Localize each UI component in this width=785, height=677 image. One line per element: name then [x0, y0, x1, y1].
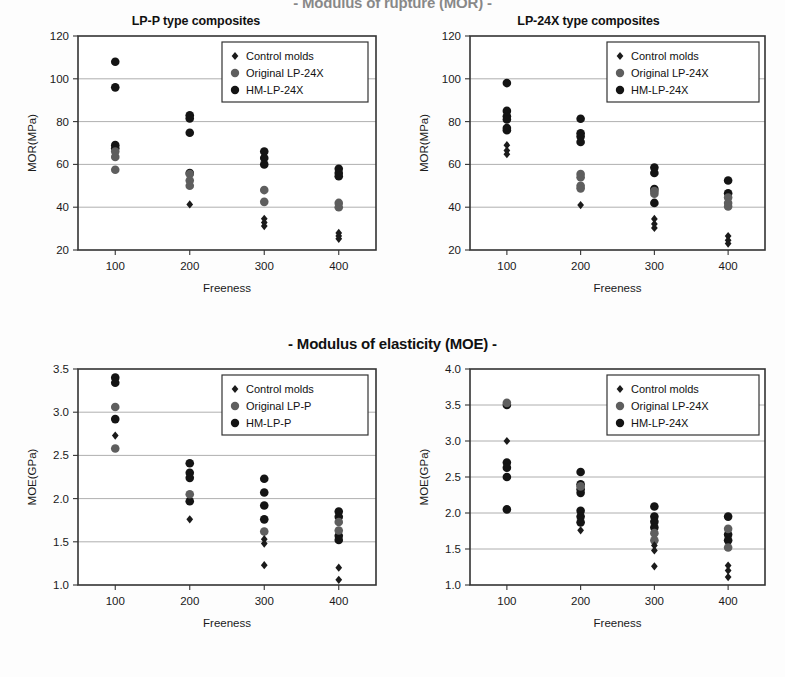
x-tick-label: 300	[645, 260, 664, 272]
y-axis-title: MOE(GPa)	[26, 448, 38, 505]
chart-svg-mor-lp-p: 20406080100120100200300400FreenessMOR(MP…	[0, 14, 392, 320]
data-point	[111, 444, 120, 453]
data-point	[503, 115, 512, 124]
legend-marker-circle-icon	[231, 419, 239, 427]
x-tick-label: 300	[255, 595, 274, 607]
y-tick-label: 80	[56, 116, 69, 128]
legend-label: Control molds	[246, 50, 314, 62]
data-point	[111, 57, 120, 66]
data-point	[503, 473, 512, 482]
legend-label: Control molds	[631, 50, 699, 62]
data-point	[650, 189, 659, 198]
y-tick-label: 1.0	[445, 579, 461, 591]
y-tick-label: 20	[448, 244, 461, 256]
data-point	[111, 379, 120, 388]
chart-svg-moe-lp-24x: 1.01.52.02.53.03.54.0100200300400Freenes…	[392, 357, 785, 657]
data-point	[334, 172, 343, 181]
legend-marker-circle-icon	[616, 69, 624, 77]
y-tick-label: 120	[442, 30, 461, 42]
legend-marker-circle-icon	[231, 402, 239, 410]
data-point	[503, 126, 512, 135]
data-point	[185, 128, 194, 137]
figure-page: - Modulus of rupture (MOR) - - Modulus o…	[0, 0, 785, 677]
legend-label: HM-LP-24X	[631, 84, 689, 96]
chart-svg-mor-lp-24x: 20406080100120100200300400FreenessMOR(MP…	[392, 14, 785, 320]
y-tick-label: 20	[56, 244, 69, 256]
legend-label: Original LP-24X	[631, 400, 709, 412]
chart-legend: Control moldsOriginal LP-24XHM-LP-24X	[607, 375, 759, 435]
chart-legend: Control moldsOriginal LP-24XHM-LP-24X	[607, 42, 759, 102]
y-tick-label: 40	[448, 201, 461, 213]
x-tick-label: 200	[180, 260, 199, 272]
y-tick-label: 80	[448, 116, 461, 128]
data-point	[650, 502, 659, 511]
legend-marker-circle-icon	[616, 419, 624, 427]
x-axis-title: Freeness	[203, 617, 251, 629]
data-point	[260, 186, 269, 195]
y-axis-title: MOE(GPa)	[418, 448, 430, 505]
x-tick-label: 400	[719, 595, 738, 607]
y-tick-label: 3.5	[53, 363, 69, 375]
chart-legend: Control moldsOriginal LP-24XHM-LP-24X	[222, 42, 368, 102]
data-point	[503, 79, 512, 88]
data-point	[334, 526, 343, 535]
data-point	[185, 114, 194, 123]
data-point	[334, 518, 343, 527]
data-point	[260, 198, 269, 207]
y-tick-label: 60	[56, 158, 69, 170]
legend-label: HM-LP-24X	[631, 417, 689, 429]
data-point	[260, 488, 269, 497]
y-axis-title: MOR(MPa)	[26, 114, 38, 172]
figure-title-mor: - Modulus of rupture (MOR) -	[0, 0, 785, 11]
data-point	[503, 505, 512, 514]
x-axis-title: Freeness	[203, 282, 251, 294]
data-point	[185, 459, 194, 468]
data-point	[334, 536, 343, 545]
y-tick-label: 2.0	[445, 507, 461, 519]
data-point	[503, 463, 512, 472]
chart-panel-mor-lp-p: LP-P type composites 2040608010012010020…	[0, 14, 392, 334]
data-point	[576, 138, 585, 147]
x-tick-label: 300	[255, 260, 274, 272]
x-axis-title: Freeness	[594, 282, 642, 294]
y-tick-label: 120	[50, 30, 69, 42]
x-tick-label: 100	[497, 595, 516, 607]
y-tick-label: 2.5	[53, 449, 69, 461]
figure-title-moe: - Modulus of elasticity (MOE) -	[0, 335, 785, 352]
y-tick-label: 40	[56, 201, 69, 213]
data-point	[185, 490, 194, 499]
y-tick-label: 4.0	[445, 363, 461, 375]
data-point	[724, 176, 733, 185]
data-point	[260, 527, 269, 536]
data-point	[260, 474, 269, 483]
data-point	[260, 501, 269, 510]
data-point	[576, 115, 585, 124]
y-tick-label: 3.0	[445, 435, 461, 447]
data-point	[576, 468, 585, 477]
data-point	[334, 203, 343, 212]
x-tick-label: 400	[329, 260, 348, 272]
data-point	[111, 403, 120, 412]
x-tick-label: 200	[571, 260, 590, 272]
legend-marker-circle-icon	[231, 69, 239, 77]
legend-label: Original LP-P	[246, 400, 311, 412]
legend-marker-circle-icon	[616, 86, 624, 94]
data-point	[111, 415, 120, 424]
data-point	[724, 202, 733, 211]
x-tick-label: 100	[497, 260, 516, 272]
data-point	[724, 512, 733, 521]
x-tick-label: 200	[571, 595, 590, 607]
data-point	[576, 173, 585, 182]
plot-area-moe-lp-p: 1.01.52.02.53.03.5100200300400FreenessMO…	[0, 357, 392, 677]
chart-panel-moe-lp-24x: 1.01.52.02.53.03.54.0100200300400Freenes…	[392, 357, 785, 677]
y-tick-label: 2.0	[53, 493, 69, 505]
y-tick-label: 3.0	[53, 406, 69, 418]
legend-label: Original LP-24X	[631, 67, 709, 79]
chart-panel-mor-lp-24x: LP-24X type composites 20406080100120100…	[392, 14, 785, 334]
data-point	[576, 518, 585, 527]
data-point	[503, 399, 512, 408]
data-point	[185, 474, 194, 483]
x-tick-label: 100	[106, 595, 125, 607]
data-point	[576, 482, 585, 491]
legend-marker-circle-icon	[616, 402, 624, 410]
